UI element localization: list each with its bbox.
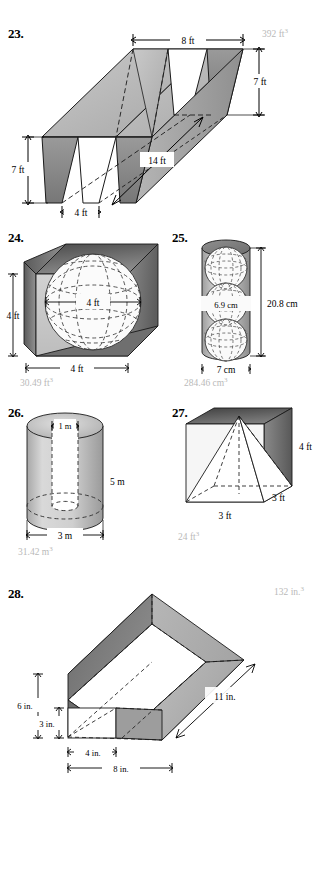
dimension-23-left-height: 7 ft [6, 135, 48, 205]
dimension-27-cube-width: 3 ft [219, 511, 232, 521]
problem-26: 26. 31.42 m3 [0, 402, 180, 567]
label-23-left-height: 7 ft [12, 165, 25, 175]
dimension-27-cube-height: 4 ft [299, 442, 312, 452]
label-24-sphere-diameter: 4 ft [87, 298, 100, 308]
label-28-base-width: 8 in. [113, 764, 128, 774]
label-28-hole-width: 4 in. [85, 748, 100, 758]
dimension-23-bottom-width: 4 ft [60, 205, 101, 219]
figure-24: 4 ft 4 ft 4 ft [0, 228, 180, 378]
dimension-26-inner-diameter: 1 m [51, 419, 79, 432]
label-26-outer-diameter: 3 m [58, 531, 73, 541]
label-26-inner-diameter: 1 m [58, 421, 71, 431]
label-25-sphere-diameter: 6.9 cm [214, 300, 238, 310]
label-27-cube-depth: 3 ft [272, 493, 285, 503]
dimension-27-cube-depth: 3 ft [272, 493, 285, 503]
dimension-28-base-width: 8 in. [67, 761, 173, 775]
dimension-25-cylinder-diameter: 7 cm [201, 362, 251, 376]
label-25-cylinder-diameter: 7 cm [217, 365, 236, 375]
label-28-length: 11 in. [214, 692, 235, 702]
figure-25: 6.9 cm 20.8 cm 7 cm [168, 228, 333, 378]
label-27-cube-width: 3 ft [219, 511, 232, 521]
label-27-cube-height: 4 ft [299, 442, 312, 452]
problem-24: 24. 30.49 ft3 [0, 228, 180, 398]
problem-27: 27. 24 ft3 [168, 402, 333, 567]
prism-23-body [42, 49, 243, 203]
dimension-24-cube-width: 4 ft [25, 361, 129, 375]
label-28-hole-height: 3 in. [39, 719, 54, 729]
figure-27: 4 ft 3 ft 3 ft [168, 402, 333, 532]
problem-25: 25. 284.46 cm3 [168, 228, 333, 398]
dimension-25-sphere-diameter: 6.9 cm [201, 296, 251, 311]
dimension-26-height: 5 m [110, 477, 125, 487]
prism-28-body [68, 594, 244, 740]
figure-26: 1 m 5 m 3 m [0, 402, 180, 547]
label-23-depth: 14 ft [148, 156, 166, 166]
problem-26-answer-value: 31.42 m [18, 547, 49, 557]
label-23-top-width: 8 ft [182, 36, 195, 46]
label-23-right-height: 7 ft [254, 77, 267, 87]
figure-23: 8 ft 7 ft 7 [0, 0, 333, 225]
problem-23: 23. 392 ft3 [0, 0, 333, 225]
figure-28: 11 in. 6 in. 3 in. [0, 572, 333, 772]
label-26-height: 5 m [110, 477, 125, 487]
problem-27-answer-value: 24 ft [178, 532, 196, 542]
label-24-cube-width: 4 ft [71, 364, 84, 374]
label-28-total-height: 6 in. [17, 701, 32, 711]
problem-25-answer-value: 284.46 cm [184, 378, 224, 388]
label-25-cylinder-height: 20.8 cm [267, 299, 298, 309]
worksheet-page: 23. 392 ft3 [0, 0, 333, 882]
dimension-28-hole-width: 4 in. [67, 745, 117, 759]
dimension-24-cube-height: 4 ft [7, 273, 20, 357]
label-23-bottom-width: 4 ft [75, 208, 88, 218]
dimension-23-top-width: 8 ft [131, 33, 245, 47]
problem-24-answer-value: 30.49 ft [20, 378, 50, 388]
problem-28: 28. 132 in.3 [0, 572, 333, 772]
dimension-25-cylinder-height: 20.8 cm [250, 247, 298, 357]
label-24-cube-height: 4 ft [7, 311, 20, 321]
